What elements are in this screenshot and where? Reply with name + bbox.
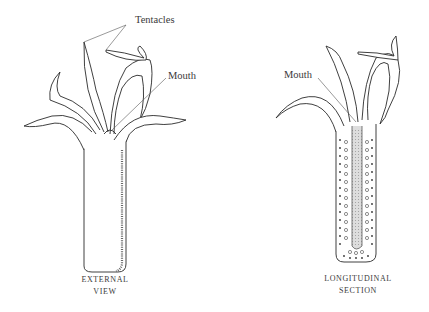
- label-mouth-external: Mouth: [168, 70, 196, 81]
- tentacle-right-low: [114, 116, 186, 143]
- caption-section-line2: SECTION: [315, 285, 401, 297]
- section-tentacle-left: [276, 97, 344, 132]
- caption-external-view: EXTERNAL VIEW: [72, 274, 138, 298]
- body-column: [84, 140, 126, 272]
- section-tentacle-spike: [358, 36, 398, 60]
- caption-external-line1: EXTERNAL: [72, 274, 138, 286]
- caption-external-line2: VIEW: [72, 286, 138, 298]
- caption-section-line1: LONGITUDINAL: [315, 273, 401, 285]
- label-tentacles: Tentacles: [135, 14, 175, 25]
- label-mouth-section: Mouth: [284, 69, 312, 80]
- section-tentacle-arch: [362, 53, 400, 124]
- hydra-diagram: [0, 0, 429, 312]
- external-view-drawing: [24, 42, 186, 272]
- tentacle-left-low: [24, 115, 92, 150]
- caption-longitudinal-section: LONGITUDINAL SECTION: [315, 273, 401, 297]
- tentacle-top-hook: [106, 46, 146, 60]
